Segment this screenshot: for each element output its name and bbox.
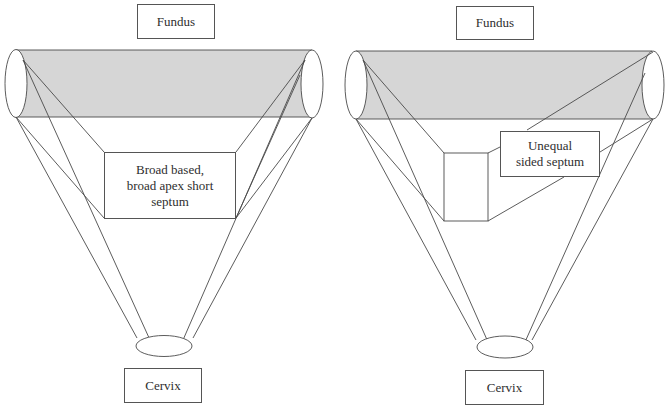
right-panel-right-horn-ellipse — [642, 51, 664, 119]
right-septum-right-connector — [600, 119, 653, 152]
uterine-septum-diagram — [0, 0, 669, 407]
right-septum-front-face — [444, 153, 488, 221]
left-fundus-label: Fundus — [137, 4, 215, 39]
right-septum-lower-left-edge — [356, 119, 444, 221]
left-cervix-label: Cervix — [124, 368, 202, 403]
right-cervix-label: Cervix — [465, 370, 544, 405]
right-panel — [345, 51, 664, 358]
right-fundus-label: Fundus — [456, 6, 534, 40]
right-septum-bottom-connector — [488, 177, 564, 221]
left-fundus-label-text: Fundus — [157, 14, 195, 30]
left-septum-label: Broad based, broad apex short septum — [104, 152, 236, 219]
left-outer-wall-r — [193, 118, 312, 338]
right-septum-top-connector — [488, 147, 500, 153]
right-cervix-ellipse — [477, 336, 533, 358]
right-septum-label: Unequal sided septum — [500, 131, 600, 177]
left-septum-label-text: Broad based, broad apex short septum — [127, 162, 214, 210]
left-fundus-band — [16, 50, 312, 117]
right-septum-label-text: Unequal sided septum — [516, 138, 584, 170]
right-fundus-band — [356, 51, 652, 119]
right-cervix-label-text: Cervix — [487, 380, 522, 396]
left-outer-wall-l — [16, 117, 137, 338]
left-cervix-label-text: Cervix — [145, 378, 180, 394]
left-cervix-ellipse — [136, 336, 192, 357]
right-fundus-label-text: Fundus — [476, 15, 514, 31]
left-septum-lower-left-edge — [16, 117, 104, 218]
right-outer-wall-l — [356, 119, 476, 340]
left-panel-left-horn-ellipse — [5, 50, 27, 118]
